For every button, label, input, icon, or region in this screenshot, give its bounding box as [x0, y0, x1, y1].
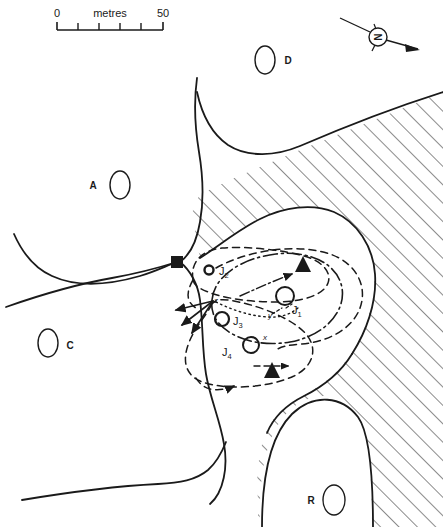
scale-label-end: 50: [157, 7, 169, 19]
north-arrow-glyph: N: [372, 33, 383, 40]
map-canvas: A D C R J1 J2 J3 J4 x y z 0 metres 50: [0, 0, 443, 527]
map-figure: A D C R J1 J2 J3 J4 x y z 0 metres 50: [0, 0, 443, 527]
zone-label-a: A: [89, 180, 96, 191]
zone-label-r: R: [307, 495, 315, 506]
square-marker[interactable]: [171, 256, 183, 268]
scale-label-start: 0: [54, 7, 60, 19]
scale-label-unit: metres: [93, 7, 127, 19]
hatched-bedrock-region: [0, 0, 443, 527]
zone-label-d: D: [284, 55, 291, 66]
zone-label-c: C: [66, 340, 73, 351]
axis-label-z: z: [213, 296, 218, 305]
